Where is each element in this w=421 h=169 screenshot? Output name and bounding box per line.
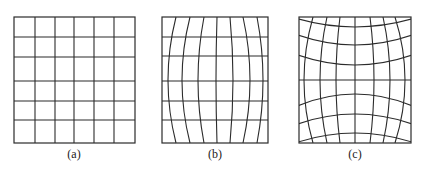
panel-c-label: (c) [348,147,361,161]
panel-c-full-barrel-grid [295,17,415,143]
panel-b-vertical-barrel-grid [162,17,268,143]
panel-a-label: (a) [67,147,80,161]
panel-b-label: (b) [208,147,222,161]
curved-vertical-line [243,17,250,143]
curved-vertical-line [198,17,204,143]
grid-lines [295,17,415,143]
curved-vertical-line [230,17,233,143]
curved-vertical-line [216,17,217,143]
curved-vertical-line [168,17,176,143]
distortion-figure: (a) (b) (c) [0,0,421,169]
panel-a-undistorted-grid [14,17,135,143]
curved-vertical-line [257,17,263,143]
grid-frame [162,17,268,143]
curved-vertical-line [182,17,190,143]
